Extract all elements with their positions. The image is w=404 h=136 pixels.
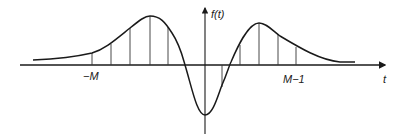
sample-lines [92, 16, 296, 87]
x-axis-label: t [383, 73, 387, 85]
y-axis-label: f(t) [211, 8, 225, 20]
function-plot: f(t) t −M M−1 [0, 0, 404, 136]
right-marker-label: M−1 [283, 73, 305, 85]
left-marker-label: −M [83, 70, 99, 82]
